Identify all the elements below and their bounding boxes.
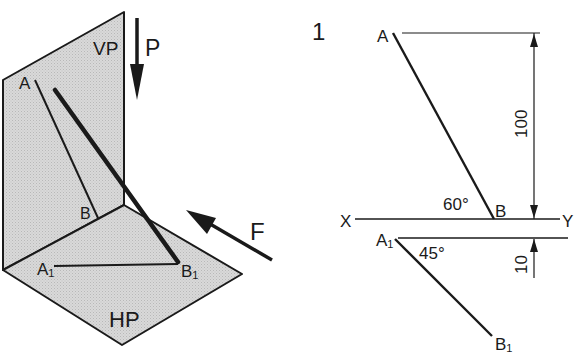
y-label: Y — [562, 212, 573, 231]
ortho-point-b-label: B — [495, 202, 506, 221]
vp-label: VP — [93, 38, 118, 59]
pictorial-view: VP P A B F A1 B1 HP — [3, 12, 272, 345]
x-label: X — [340, 212, 351, 231]
ortho-point-a1-label: A1 — [376, 231, 393, 250]
ortho-point-b1-label: B1 — [495, 335, 512, 354]
dimension-10 — [530, 239, 538, 278]
point-a-label: A — [19, 74, 31, 93]
orthographic-view: 1 100 10 A 60° B X Y A1 45° B1 — [312, 18, 573, 354]
hp-label: HP — [109, 307, 140, 332]
angle-45-label: 45° — [419, 244, 445, 263]
point-b-label: B — [80, 205, 91, 222]
angle-60-label: 60° — [443, 195, 469, 214]
view-arrow-p — [130, 18, 144, 100]
dimension-100-label: 100 — [512, 110, 531, 138]
ortho-point-a-label: A — [377, 27, 389, 46]
front-view-line — [393, 33, 494, 219]
projection-diagram: VP P A B F A1 B1 HP 1 100 10 — [0, 0, 583, 359]
p-label: P — [145, 35, 160, 61]
figure-number: 1 — [312, 18, 325, 45]
dimension-100 — [530, 33, 538, 219]
f-label: F — [250, 218, 265, 245]
dimension-10-label: 10 — [512, 255, 531, 274]
